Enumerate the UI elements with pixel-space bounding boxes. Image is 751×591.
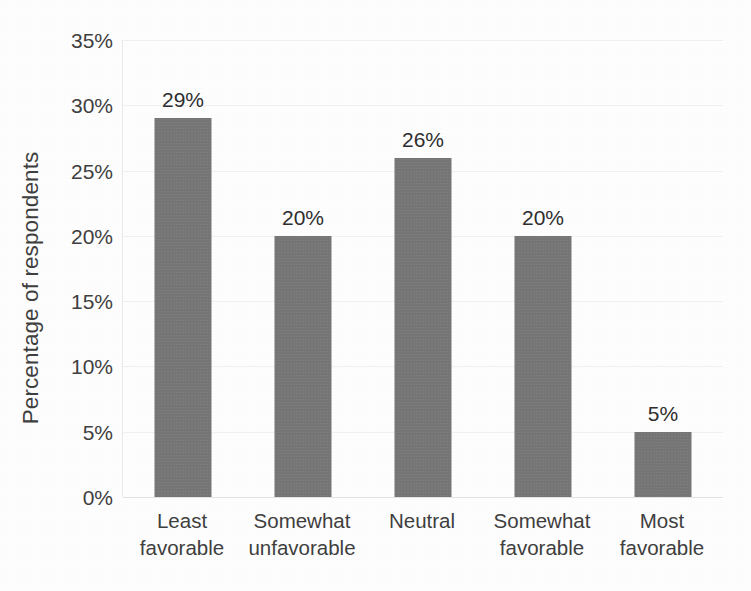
bar-slot: 20%	[243, 40, 363, 497]
gridline	[123, 497, 723, 498]
bar-value-label: 29%	[162, 89, 204, 110]
bar-slot: 29%	[123, 40, 243, 497]
bar-slot: 20%	[483, 40, 603, 497]
y-axis-tick-label: 35%	[23, 30, 113, 51]
bar[interactable]	[155, 118, 212, 497]
y-axis-tick-label: 15%	[23, 291, 113, 312]
bar-value-label: 5%	[648, 403, 678, 424]
y-axis-tick-label: 5%	[23, 422, 113, 443]
plot-area: 29%20%26%20%5%	[122, 40, 722, 497]
y-axis-tick-label: 30%	[23, 95, 113, 116]
bar[interactable]	[515, 236, 572, 497]
bar-value-label: 20%	[522, 207, 564, 228]
bar[interactable]	[275, 236, 332, 497]
bar-chart: Percentage of respondents 0%5%10%15%20%2…	[0, 0, 751, 591]
bar-slot: 26%	[363, 40, 483, 497]
bar-slot: 5%	[603, 40, 723, 497]
y-axis-tick-label: 25%	[23, 161, 113, 182]
bar[interactable]	[635, 432, 692, 497]
x-axis-tick-label: Mostfavorable	[587, 508, 737, 561]
bar-value-label: 26%	[402, 129, 444, 150]
y-axis-tick-label: 10%	[23, 356, 113, 377]
y-axis-tick-label: 0%	[23, 487, 113, 508]
y-axis-tick-label: 20%	[23, 226, 113, 247]
bar[interactable]	[395, 158, 452, 497]
bar-value-label: 20%	[282, 207, 324, 228]
